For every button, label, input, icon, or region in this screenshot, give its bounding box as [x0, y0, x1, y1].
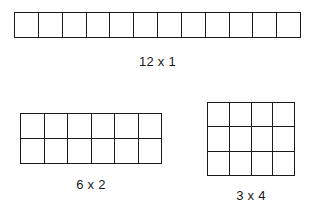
array-cell — [92, 139, 115, 163]
array-label-12x1: 12 x 1 — [14, 55, 301, 68]
array-cell — [208, 103, 229, 126]
array-cell — [230, 103, 251, 126]
array-label-6x2: 6 x 2 — [20, 178, 162, 191]
array-cell — [45, 114, 68, 138]
array-cell — [68, 139, 91, 163]
array-label-3x4: 3 x 4 — [207, 189, 295, 202]
array-cell — [252, 152, 273, 175]
array-cell — [273, 127, 294, 150]
array-cell — [115, 139, 138, 163]
array-cell — [68, 114, 91, 138]
array-cell — [208, 152, 229, 175]
array-cell — [92, 114, 115, 138]
array-cell — [252, 103, 273, 126]
array-cell — [45, 139, 68, 163]
array-cell — [63, 13, 86, 37]
array-cell — [230, 127, 251, 150]
array-cell — [158, 13, 181, 37]
array-figure-12x1: 12 x 1 — [14, 12, 301, 68]
array-grid-12x1 — [14, 12, 301, 38]
array-grid-3x4 — [207, 102, 295, 176]
array-cell — [115, 114, 138, 138]
array-figure-3x4: 3 x 4 — [207, 102, 295, 202]
array-cell — [182, 13, 205, 37]
array-cell — [87, 13, 110, 37]
array-cell — [110, 13, 133, 37]
array-cell — [21, 139, 44, 163]
diagram-canvas: 12 x 1 6 x 2 3 x 4 — [0, 0, 315, 212]
array-cell — [273, 103, 294, 126]
array-cell — [39, 13, 62, 37]
array-figure-6x2: 6 x 2 — [20, 113, 162, 191]
array-cell — [134, 13, 157, 37]
array-cell — [230, 13, 253, 37]
array-grid-6x2 — [20, 113, 162, 164]
array-cell — [230, 152, 251, 175]
array-cell — [252, 127, 273, 150]
array-cell — [208, 127, 229, 150]
array-cell — [15, 13, 38, 37]
array-cell — [277, 13, 300, 37]
array-cell — [273, 152, 294, 175]
array-cell — [139, 139, 162, 163]
array-cell — [139, 114, 162, 138]
array-cell — [253, 13, 276, 37]
array-cell — [21, 114, 44, 138]
array-cell — [206, 13, 229, 37]
